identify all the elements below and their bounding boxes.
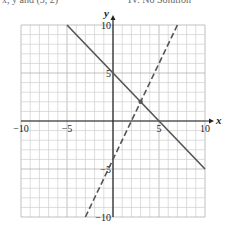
intersection-point: [138, 100, 142, 104]
x-tick-label: −5: [62, 123, 73, 134]
solid-line: [67, 25, 205, 169]
y-tick-label: 10: [101, 20, 111, 31]
y-axis-label: y: [102, 7, 109, 19]
x-axis-label: x: [215, 114, 222, 126]
x-tick-label: 5: [157, 123, 162, 134]
y-tick-label: −10: [95, 212, 111, 223]
coordinate-plane-chart: xy−10−5510105−5−10: [0, 0, 227, 232]
x-tick-label: −10: [13, 123, 29, 134]
x-tick-label: 10: [200, 123, 210, 134]
y-axis-arrow-icon: [111, 15, 116, 20]
